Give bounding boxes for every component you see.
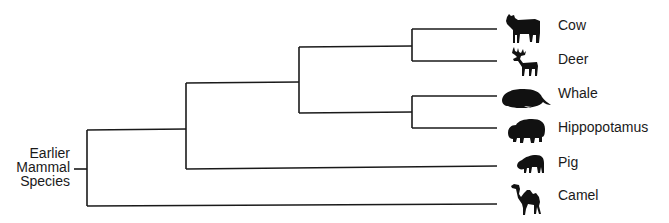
leaf-label-pig: Pig — [558, 155, 578, 169]
root-label-line-2: Mammal — [0, 160, 70, 174]
branch-pig — [186, 166, 497, 169]
branch-camel — [87, 204, 497, 206]
leaf-label-hippopotamus: Hippopotamus — [558, 120, 648, 134]
whale-icon — [502, 89, 551, 108]
leaf-label-cow: Cow — [558, 18, 586, 32]
pig-icon — [517, 155, 544, 173]
hippopotamus-icon — [508, 119, 545, 143]
leaf-label-camel: Camel — [558, 188, 598, 202]
branch-whale-hippo-node — [299, 112, 412, 113]
branch-node2 — [87, 129, 186, 130]
root-label: Earlier Mammal Species — [0, 146, 70, 188]
root-label-line-3: Species — [0, 174, 70, 188]
deer-icon — [512, 47, 538, 76]
cow-icon — [506, 14, 540, 43]
camel-icon — [511, 184, 541, 215]
branch-cow-deer-node — [299, 46, 412, 47]
leaf-label-whale: Whale — [558, 86, 598, 100]
branch-node3 — [186, 82, 299, 83]
leaf-label-deer: Deer — [558, 52, 588, 66]
root-label-line-1: Earlier — [0, 146, 70, 160]
